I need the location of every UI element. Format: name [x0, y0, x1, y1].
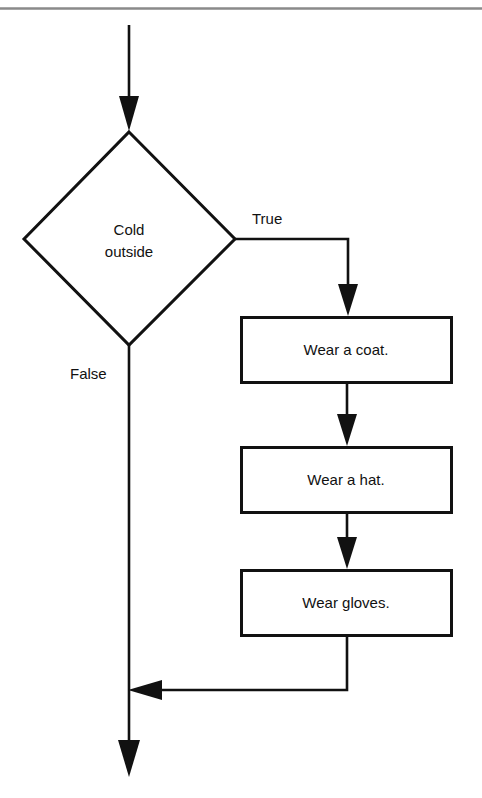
- process-node-2[interactable]: Wear a hat.: [242, 448, 452, 513]
- process-node-1[interactable]: Wear a coat.: [242, 318, 452, 383]
- process-node-3[interactable]: Wear gloves.: [242, 571, 452, 636]
- process-node-3-label: Wear gloves.: [302, 594, 389, 611]
- process-node-2-label: Wear a hat.: [307, 471, 384, 488]
- connector-step2-step3: [337, 513, 357, 569]
- decision-node-cold-outside[interactable]: Cold outside: [24, 132, 235, 345]
- entry-arrow: [119, 25, 139, 131]
- decision-label-line1: Cold: [114, 221, 145, 238]
- flowchart-drawing: Cold outside True Wear a coat. Wear a ha…: [0, 0, 482, 798]
- edge-label-true: True: [252, 210, 282, 227]
- process-node-1-label: Wear a coat.: [304, 341, 389, 358]
- connector-step1-step2: [337, 383, 357, 446]
- flowchart-canvas: Cold outside True Wear a coat. Wear a ha…: [0, 0, 482, 798]
- merge-connector: [128, 636, 347, 700]
- false-branch-connector: [118, 345, 140, 777]
- edge-label-false: False: [70, 365, 107, 382]
- true-branch-connector: [235, 239, 358, 316]
- decision-label-line2: outside: [105, 243, 153, 260]
